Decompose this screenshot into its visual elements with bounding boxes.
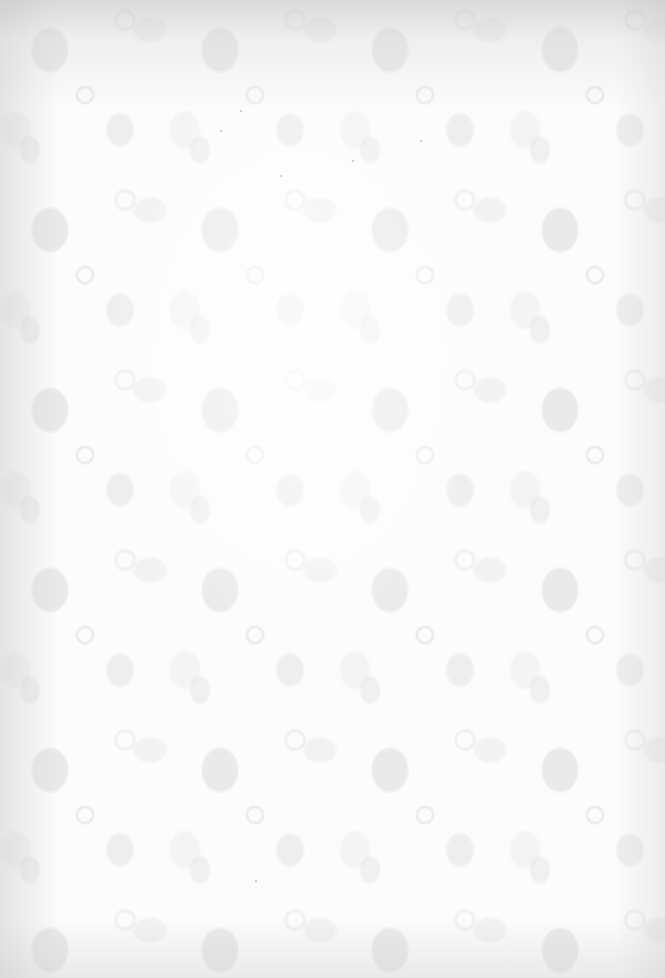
- speck: [255, 880, 257, 882]
- speck: [240, 110, 242, 112]
- speck: [420, 140, 422, 142]
- speck: [352, 160, 354, 162]
- speck: [280, 175, 282, 177]
- patterned-paper: Blank sheet of patterned paper with a fa…: [0, 0, 665, 978]
- speck: [220, 130, 222, 132]
- worn-edges: [0, 0, 665, 978]
